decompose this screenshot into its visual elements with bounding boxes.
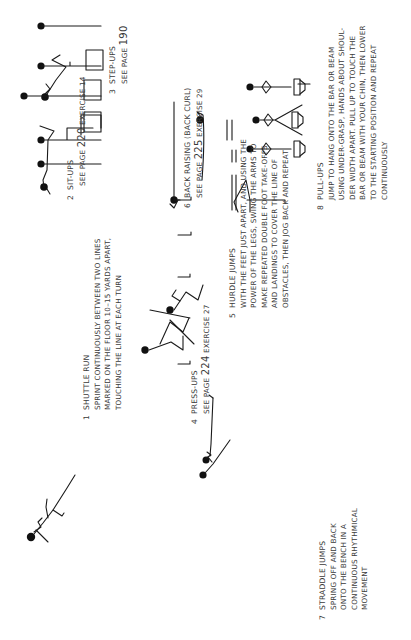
exercise-name: PRESS-UPS (190, 370, 199, 414)
shuttle-run-figure (27, 475, 75, 542)
description-line: DER WIDTH APART. PULL UP TO TOUCH THE (348, 25, 359, 200)
exercise-reference: SEE PAGE 224 EXERCISE 27 (201, 304, 213, 424)
exercise-title: 7STRADDLE JUMPS (318, 508, 329, 620)
exercise-7-straddle-jumps: 7STRADDLE JUMPS SPRING OFF AND BACK ONTO… (318, 508, 371, 620)
exercise-4-press-ups: 4PRESS-UPS SEE PAGE 224 EXERCISE 27 (190, 304, 212, 424)
ref-page: 225 (193, 140, 204, 160)
ref-exercise: EXERCISE 14 (78, 76, 87, 125)
description-line: MAKE REPEATED DOUBLE FOOT TAKE-OFFS (260, 139, 271, 308)
ref-page: 190 (118, 26, 129, 46)
description-line: CONTINUOUS RHYTHMICAL (350, 508, 361, 610)
exercise-title: 8PULL-UPS (316, 25, 327, 210)
description-line: POWER OF THE LEGS, SWING THE ARMS TO (249, 139, 260, 308)
exercise-3-step-ups: 3STEP-UPS SEE PAGE 190 (108, 26, 130, 95)
description-line: USING UNDER-GRASP, HANDS ABOUT SHOUL- (337, 25, 348, 200)
exercise-name: HURDLE JUMPS (228, 248, 237, 308)
ref-exercise: EXERCISE 27 (202, 304, 211, 353)
description-line: ONTO THE BENCH IN A (339, 508, 350, 610)
exercise-5-hurdle-jumps: 5HURDLE JUMPS WITH THE FEET JUST APART, … (228, 139, 292, 318)
description-line: SPRINT CONTINUOUSLY BETWEEN TWO LINES (93, 238, 104, 410)
ref-page: 224 (200, 356, 211, 376)
description-line: MOVEMENT (360, 508, 371, 610)
description-line: MARKED ON THE FLOOR 10–15 YARDS APART, (103, 238, 114, 410)
exercise-number: 2 (66, 195, 75, 200)
exercise-reference: SEE PAGE 225 EXERCISE 29 (194, 87, 206, 208)
ref-prefix: SEE PAGE (120, 48, 129, 84)
exercise-name: BACK RAISING (BACK CURL) (183, 87, 192, 197)
exercise-name: SHUTTLE RUN (82, 355, 91, 410)
description-line: CONTINUOUSLY (380, 25, 391, 200)
exercise-6-back-raising: 6BACK RAISING (BACK CURL) SEE PAGE 225 E… (183, 87, 205, 208)
exercise-name: SIT-UPS (66, 160, 75, 190)
exercise-number: 4 (190, 419, 199, 424)
exercise-title: 1SHUTTLE RUN (82, 238, 93, 420)
exercise-8-pull-ups: 8PULL-UPS JUMP TO HANG ONTO THE BAR OR B… (316, 25, 390, 210)
exercise-name: STRADDLE JUMPS (318, 541, 327, 610)
exercise-name: STEP-UPS (108, 46, 117, 84)
exercise-reference: SEE PAGE 190 (119, 26, 131, 95)
exercise-number: 8 (316, 205, 325, 210)
exercise-number: 7 (318, 615, 327, 620)
description-line: TO THE STARTING POSITION AND REPEAT (369, 25, 380, 200)
exercise-description: WITH THE FEET JUST APART, AND USING THE … (239, 139, 292, 318)
exercise-number: 3 (108, 89, 117, 94)
step-ups-figure (20, 22, 103, 167)
ref-exercise: EXERCISE 29 (195, 88, 204, 137)
ref-prefix: SEE PAGE (202, 378, 211, 414)
exercise-title: 5HURDLE JUMPS (228, 139, 239, 318)
exercise-reference: SEE PAGE 220 EXERCISE 14 (77, 76, 89, 200)
exercise-number: 5 (228, 313, 237, 318)
exercise-1-shuttle-run: 1SHUTTLE RUN SPRINT CONTINUOUSLY BETWEEN… (82, 238, 124, 420)
description-line: SPRING OFF AND BACK (329, 508, 340, 610)
rotated-book-page: 1SHUTTLE RUN SPRINT CONTINUOUSLY BETWEEN… (0, 0, 411, 640)
description-line: JUMP TO HANG ONTO THE BAR OR BEAM (327, 25, 338, 200)
exercise-number: 1 (82, 415, 91, 420)
sit-ups-figure (40, 55, 66, 194)
exercise-description: JUMP TO HANG ONTO THE BAR OR BEAM USING … (327, 25, 391, 210)
ref-prefix: SEE PAGE (195, 162, 204, 198)
description-line: BAR OR BEAM WITH YOUR CHIN, THEN LOWER (358, 25, 369, 200)
exercise-number: 6 (183, 203, 192, 208)
description-line: OBSTACLES, THEN JOG BACK AND REPEAT (281, 139, 292, 308)
exercise-name: PULL-UPS (316, 162, 325, 200)
description-line: TOUCHING THE LINE AT EACH TURN (114, 238, 125, 410)
description-line: WITH THE FEET JUST APART, AND USING THE (239, 139, 250, 308)
ref-prefix: SEE PAGE (78, 150, 87, 186)
description-line: AND LANDINGS TO COVER THE LINE OF (270, 139, 281, 308)
exercise-description: SPRING OFF AND BACK ONTO THE BENCH IN A … (329, 508, 371, 620)
ref-page: 220 (76, 128, 87, 148)
exercise-2-sit-ups: 2SIT-UPS SEE PAGE 220 EXERCISE 14 (66, 76, 88, 200)
exercise-description: SPRINT CONTINUOUSLY BETWEEN TWO LINES MA… (93, 238, 125, 420)
